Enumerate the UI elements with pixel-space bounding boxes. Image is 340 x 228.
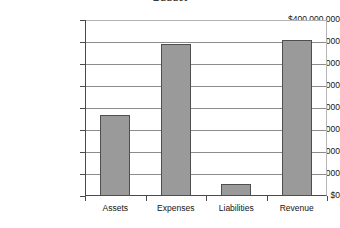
bar-slot	[85, 20, 146, 196]
x-axis-tick-mark	[327, 196, 328, 201]
bar-chart: Budget $0$50,000,000$100,000,000$150,000…	[0, 0, 340, 228]
x-axis-label-assets: Assets	[85, 203, 146, 213]
bar-slot	[206, 20, 267, 196]
x-axis-label-revenue: Revenue	[267, 203, 328, 213]
bar-revenue[interactable]	[282, 40, 312, 196]
bar-assets[interactable]	[100, 115, 130, 196]
chart-title: Budget	[0, 0, 340, 1]
bar-expenses[interactable]	[161, 44, 191, 196]
x-axis-tick-mark	[85, 196, 86, 201]
x-axis-label-expenses: Expenses	[146, 203, 207, 213]
x-axis-tick-mark	[206, 196, 207, 201]
bars-layer	[85, 20, 327, 196]
bar-slot	[267, 20, 328, 196]
x-axis-tick-mark	[146, 196, 147, 201]
x-axis-tick-mark	[267, 196, 268, 201]
bar-liabilities[interactable]	[221, 184, 251, 196]
bar-slot	[146, 20, 207, 196]
x-axis-label-liabilities: Liabilities	[206, 203, 267, 213]
